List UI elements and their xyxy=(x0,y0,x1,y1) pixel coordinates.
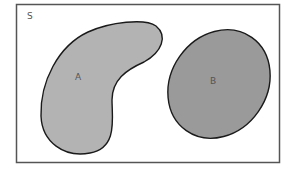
set-a-label: A xyxy=(75,72,82,82)
venn-diagram: S A B xyxy=(0,0,308,180)
set-b-label: B xyxy=(210,76,216,86)
universe-set-label: S xyxy=(27,11,33,21)
